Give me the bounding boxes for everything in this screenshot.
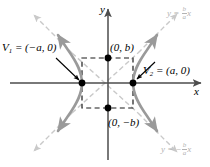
label-x-axis: x	[194, 86, 199, 97]
label-asymptote-positive: y = bax	[167, 6, 191, 21]
v1-value: = (−a, 0)	[12, 41, 56, 53]
label-vertex-v2: V2 = (a, 0)	[143, 65, 190, 78]
label-covertex-bottom: (0, −b)	[108, 117, 139, 128]
hyperbola-figure: V1 = (−a, 0) V2 = (a, 0) (0, b) (0, −b) …	[0, 0, 210, 167]
left-vertex-point	[79, 80, 86, 87]
v2-value: = (a, 0)	[153, 64, 190, 76]
top-covertex-point	[105, 55, 112, 62]
asym-pos-tail: x	[187, 8, 191, 18]
v1-symbol: V	[2, 41, 9, 53]
label-covertex-top: (0, b)	[110, 42, 134, 53]
label-y-axis: y	[100, 4, 105, 15]
asym-neg-tail: x	[187, 144, 191, 154]
asym-neg-lead: y = −	[161, 144, 182, 154]
label-vertex-v1: V1 = (−a, 0)	[2, 42, 56, 55]
asym-pos-lead: y =	[167, 8, 182, 18]
bottom-covertex-point	[105, 105, 112, 112]
label-asymptote-negative: y = −bax	[161, 142, 191, 157]
v2-symbol: V	[143, 64, 150, 76]
right-vertex-point	[130, 80, 137, 87]
